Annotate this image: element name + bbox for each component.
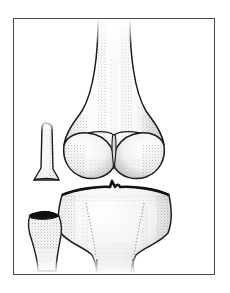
patella (34, 119, 60, 181)
fibula-head (28, 211, 62, 274)
knee-joint-illustration (14, 19, 214, 274)
page-root: human knee joint (0, 0, 230, 293)
anatomical-plate-frame (13, 18, 215, 275)
tibia-shaft (54, 253, 179, 274)
knee-joint-figure (14, 19, 214, 274)
